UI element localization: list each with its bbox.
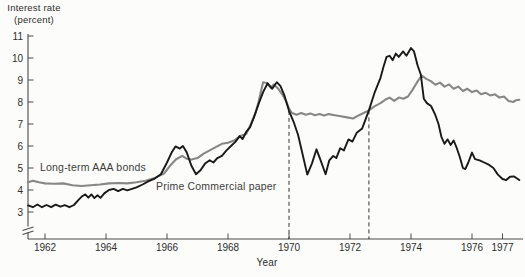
axis-break-mark: [23, 227, 34, 231]
x-tick-label: 1962: [34, 242, 57, 253]
y-tick-label: 8: [17, 97, 23, 108]
x-tick-label: 1972: [339, 242, 362, 253]
y-axis-title-line2: (percent): [2, 14, 66, 26]
y-tick-label: 7: [17, 119, 23, 130]
chart-canvas: 3456789101119621964196619681970197219741…: [0, 0, 525, 277]
y-tick-label: 11: [13, 31, 24, 42]
x-tick-label: 1976: [461, 242, 484, 253]
x-tick-label: 1968: [217, 242, 240, 253]
x-tick-label: 1966: [156, 242, 179, 253]
x-tick-label: 1974: [400, 242, 423, 253]
x-tick-label: 1970: [278, 242, 301, 253]
y-axis-title-line1: Interest rate: [2, 2, 66, 14]
y-axis-title: Interest rate (percent): [2, 2, 66, 25]
series-label-commercial-paper: Prime Commercial paper: [156, 180, 277, 192]
y-tick-label: 4: [17, 185, 23, 196]
series-label-aaa-bonds: Long-term AAA bonds: [40, 161, 146, 173]
y-tick-label: 3: [17, 207, 23, 218]
y-tick-label: 6: [17, 141, 23, 152]
x-axis-title: Year: [247, 257, 287, 268]
y-tick-label: 9: [17, 75, 23, 86]
x-tick-label: 1964: [95, 242, 118, 253]
y-tick-label: 10: [12, 53, 24, 64]
y-tick-label: 5: [17, 163, 23, 174]
x-tick-label: 1977: [491, 242, 514, 253]
interest-rate-chart: 3456789101119621964196619681970197219741…: [0, 0, 525, 277]
